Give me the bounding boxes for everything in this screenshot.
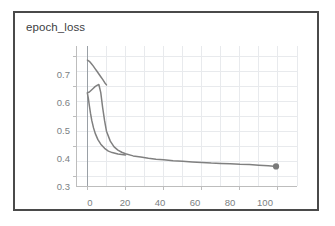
x-tick-label-2: 40 [145,197,175,208]
chart-canvas[interactable] [76,46,297,186]
y-tick-label-2: 0.5 [44,125,70,136]
y-tick-label-3: 0.4 [44,153,70,164]
y-tick-label-0: 0.7 [44,69,70,80]
data-series-group[interactable] [87,60,276,166]
x-tick-label-3: 60 [180,197,210,208]
endpoint-marker[interactable] [273,163,279,169]
x-tick-label-4: 80 [215,197,245,208]
series-line-0[interactable] [87,60,106,85]
endpoint-marker-dot[interactable] [273,163,279,169]
axis-ticks [73,57,278,190]
page-title: epoch_loss [26,21,85,33]
x-tick-label-1: 20 [110,197,140,208]
x-tick-label-0: 0 [75,197,105,208]
y-tick-label-1: 0.6 [44,97,70,108]
y-tick-label-4: 0.3 [44,181,70,192]
plot-area[interactable] [76,46,297,186]
screenshot-root: epoch_loss 0.7 0.6 0.5 0.4 0.3 0 20 40 6… [0,0,335,226]
x-tick-label-5: 100 [250,197,280,208]
